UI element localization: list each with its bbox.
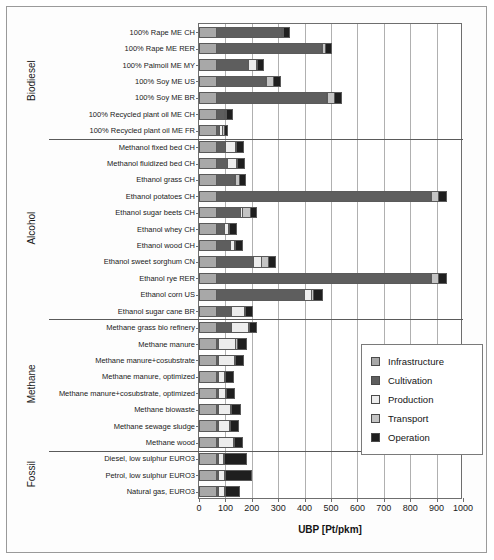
stacked-bar[interactable] <box>199 453 247 464</box>
bar-segment-operation[interactable] <box>225 453 247 464</box>
bar-segment-operation[interactable] <box>269 256 276 267</box>
stacked-bar[interactable] <box>199 322 257 333</box>
bar-segment-production[interactable] <box>219 388 227 399</box>
bar-segment-operation[interactable] <box>232 404 240 415</box>
bar-segment-production[interactable] <box>249 59 256 70</box>
stacked-bar[interactable] <box>199 27 290 38</box>
stacked-bar[interactable] <box>199 76 281 87</box>
stacked-bar[interactable] <box>199 141 244 152</box>
bar-segment-infrastructure[interactable] <box>199 43 217 54</box>
stacked-bar[interactable] <box>199 191 447 202</box>
bar-segment-operation[interactable] <box>439 191 447 202</box>
bar-segment-production[interactable] <box>219 437 235 448</box>
stacked-bar[interactable] <box>199 338 247 349</box>
bar-segment-infrastructure[interactable] <box>199 125 217 136</box>
stacked-bar[interactable] <box>199 306 253 317</box>
bar-segment-infrastructure[interactable] <box>199 273 217 284</box>
bar-segment-production[interactable] <box>219 420 230 431</box>
bar-segment-cultivation[interactable] <box>217 43 321 54</box>
bar-segment-infrastructure[interactable] <box>199 191 217 202</box>
bar-segment-cultivation[interactable] <box>217 59 249 70</box>
bar-segment-operation[interactable] <box>237 141 244 152</box>
stacked-bar[interactable] <box>199 420 239 431</box>
bar-segment-cultivation[interactable] <box>217 240 230 251</box>
bar-segment-operation[interactable] <box>246 306 253 317</box>
stacked-bar[interactable] <box>199 207 257 218</box>
bar-segment-production[interactable] <box>232 306 245 317</box>
bar-segment-cultivation[interactable] <box>217 174 235 185</box>
stacked-bar[interactable] <box>199 486 240 497</box>
bar-segment-cultivation[interactable] <box>217 158 227 169</box>
bar-segment-cultivation[interactable] <box>217 191 431 202</box>
stacked-bar[interactable] <box>199 43 332 54</box>
stacked-bar[interactable] <box>199 437 243 448</box>
bar-segment-operation[interactable] <box>326 43 332 54</box>
stacked-bar[interactable] <box>199 240 243 251</box>
bar-segment-production[interactable] <box>219 404 232 415</box>
bar-segment-cultivation[interactable] <box>217 207 240 218</box>
stacked-bar[interactable] <box>199 59 264 70</box>
bar-segment-operation[interactable] <box>236 355 244 366</box>
bar-segment-operation[interactable] <box>258 59 265 70</box>
bar-segment-production[interactable] <box>226 141 236 152</box>
bar-segment-operation[interactable] <box>226 470 251 481</box>
bar-segment-production[interactable] <box>232 322 248 333</box>
bar-segment-infrastructure[interactable] <box>199 404 217 415</box>
bar-segment-production[interactable] <box>219 470 226 481</box>
bar-segment-infrastructure[interactable] <box>199 223 217 234</box>
bar-segment-transport[interactable] <box>328 92 335 103</box>
bar-segment-infrastructure[interactable] <box>199 109 217 120</box>
bar-segment-infrastructure[interactable] <box>199 453 217 464</box>
legend-item[interactable]: Cultivation <box>371 371 474 390</box>
bar-segment-cultivation[interactable] <box>217 289 304 300</box>
stacked-bar[interactable] <box>199 223 237 234</box>
bar-segment-transport[interactable] <box>243 207 250 218</box>
bar-segment-operation[interactable] <box>225 125 228 136</box>
bar-segment-infrastructure[interactable] <box>199 158 217 169</box>
stacked-bar[interactable] <box>199 355 244 366</box>
bar-segment-operation[interactable] <box>251 207 257 218</box>
bar-segment-operation[interactable] <box>235 437 243 448</box>
bar-segment-production[interactable] <box>254 256 262 267</box>
bar-segment-cultivation[interactable] <box>217 322 232 333</box>
bar-segment-cultivation[interactable] <box>217 306 232 317</box>
stacked-bar[interactable] <box>199 125 228 136</box>
bar-segment-infrastructure[interactable] <box>199 92 217 103</box>
bar-segment-transport[interactable] <box>267 76 274 87</box>
bar-segment-operation[interactable] <box>226 371 233 382</box>
bar-segment-operation[interactable] <box>238 158 245 169</box>
stacked-bar[interactable] <box>199 470 252 481</box>
bar-segment-infrastructure[interactable] <box>199 256 217 267</box>
stacked-bar[interactable] <box>199 109 233 120</box>
bar-segment-operation[interactable] <box>231 420 239 431</box>
bar-segment-cultivation[interactable] <box>217 27 282 38</box>
bar-segment-production[interactable] <box>219 338 237 349</box>
bar-segment-production[interactable] <box>219 355 235 366</box>
bar-segment-infrastructure[interactable] <box>199 388 217 399</box>
bar-segment-operation[interactable] <box>238 338 248 349</box>
bar-segment-cultivation[interactable] <box>217 141 225 152</box>
bar-segment-operation[interactable] <box>284 27 290 38</box>
bar-segment-infrastructure[interactable] <box>199 76 217 87</box>
bar-segment-production[interactable] <box>219 371 226 382</box>
legend-item[interactable]: Infrastructure <box>371 352 474 371</box>
bar-segment-infrastructure[interactable] <box>199 322 217 333</box>
bar-segment-operation[interactable] <box>226 486 240 497</box>
bar-segment-operation[interactable] <box>227 388 234 399</box>
bar-segment-production[interactable] <box>305 289 312 300</box>
bar-segment-operation[interactable] <box>227 109 233 120</box>
bar-segment-infrastructure[interactable] <box>199 355 217 366</box>
bar-segment-operation[interactable] <box>439 273 447 284</box>
bar-segment-infrastructure[interactable] <box>199 306 217 317</box>
bar-segment-cultivation[interactable] <box>217 256 254 267</box>
bar-segment-infrastructure[interactable] <box>199 59 217 70</box>
bar-segment-infrastructure[interactable] <box>199 437 217 448</box>
bar-segment-infrastructure[interactable] <box>199 207 217 218</box>
legend-item[interactable]: Transport <box>371 409 474 428</box>
bar-segment-infrastructure[interactable] <box>199 141 217 152</box>
bar-segment-infrastructure[interactable] <box>199 338 217 349</box>
stacked-bar[interactable] <box>199 404 241 415</box>
stacked-bar[interactable] <box>199 273 447 284</box>
bar-segment-cultivation[interactable] <box>217 92 327 103</box>
stacked-bar[interactable] <box>199 289 323 300</box>
